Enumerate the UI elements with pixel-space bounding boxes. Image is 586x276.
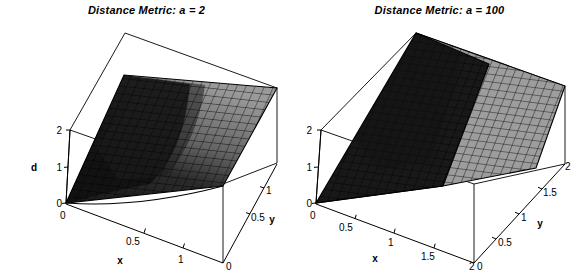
plot-panel-a100: Distance Metric: a = 100	[293, 0, 586, 276]
xtick-a100-2: 1	[388, 237, 394, 248]
axis-label-y-a2: y	[269, 214, 275, 225]
xtick-a100-1: 0.5	[339, 222, 353, 233]
axis-z-a2: 2 1 0 d	[31, 125, 70, 209]
axis-x-a2: 0 0.5 1 x	[60, 200, 223, 266]
plot-panel-a2: Distance Metric: a = 2	[0, 0, 293, 276]
xtick-a2-0: 0	[60, 210, 66, 221]
ytick-a2-0: 0	[226, 261, 232, 272]
ztick-a100-1: 1	[306, 162, 312, 173]
ytick-a100-2: 1	[521, 212, 527, 223]
ytick-a2-1: 0.5	[251, 212, 265, 223]
ztick-a100-2: 2	[306, 125, 312, 136]
surface-plot-a2: 2 1 0 d 0 0.5 1 x 0 0.5 1 y	[0, 18, 293, 276]
surface-plot-a100: 2 1 0 d 0 0.5 1 1.5 2 x 0 0.5	[293, 18, 586, 276]
ytick-a100-0: 0	[477, 261, 483, 272]
ztick-a2-0: 0	[56, 198, 62, 209]
ytick-a100-4: 2	[565, 161, 571, 172]
mesh-surface-a100	[316, 33, 565, 203]
axis-z-a100: 2 1 0 d	[293, 125, 321, 209]
xtick-a100-3: 1.5	[421, 251, 435, 262]
figure-root: Distance Metric: a = 2	[0, 0, 586, 276]
axis-label-x-a100: x	[372, 253, 378, 264]
ztick-a2-1: 1	[56, 162, 62, 173]
ztick-a100-0: 0	[306, 198, 312, 209]
ytick-a100-3: 1.5	[543, 187, 557, 198]
mesh-surface-a2	[66, 75, 277, 204]
xtick-a2-1: 0.5	[126, 236, 140, 247]
ztick-a2-2: 2	[56, 125, 62, 136]
axis-x-a100: 0 0.5 1 1.5 2 x	[310, 200, 475, 272]
axis-label-y-a100: y	[537, 218, 543, 229]
axis-label-d-a2: d	[31, 162, 37, 173]
xtick-a100-0: 0	[310, 210, 316, 221]
ytick-a100-1: 0.5	[498, 237, 512, 248]
xtick-a2-2: 1	[178, 254, 184, 265]
axis-label-x-a2: x	[117, 255, 123, 266]
axis-y-a2: 0 0.5 1 y	[223, 164, 277, 272]
ytick-a2-2: 1	[266, 185, 272, 196]
plot-title-a2: Distance Metric: a = 2	[0, 4, 293, 16]
plot-title-a100: Distance Metric: a = 100	[293, 4, 586, 16]
